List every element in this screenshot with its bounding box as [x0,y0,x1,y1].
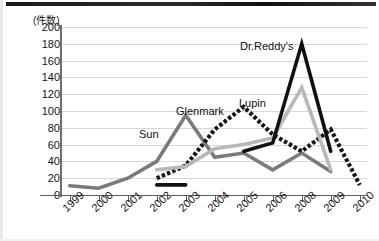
series-lines [0,0,379,241]
annotation-glenmark: Glenmark [176,105,224,117]
annotation-lupin: Lupin [239,97,266,109]
chart-container: (件数) 200180160140120100806040200 1999200… [0,0,379,241]
series-line-sun [70,115,331,188]
annotation-dr-reddy-s: Dr.Reddy's [240,40,293,52]
annotation-sun: Sun [139,128,159,140]
